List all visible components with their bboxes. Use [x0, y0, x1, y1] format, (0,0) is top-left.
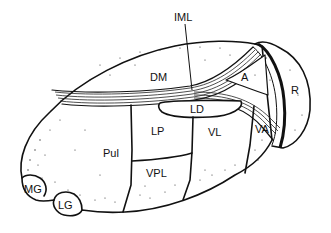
label-va: VA [255, 123, 270, 135]
label-pul: Pul [103, 147, 119, 159]
thalamus-diagram: IML DM A R LD LP VL VA Pul VPL MG LG [0, 0, 331, 233]
label-dm: DM [150, 71, 167, 83]
label-iml: IML [174, 11, 192, 23]
label-r: R [291, 84, 299, 96]
label-vpl: VPL [146, 167, 167, 179]
internal-medullary-lamina [52, 47, 280, 140]
label-ld: LD [190, 103, 204, 115]
label-lg: LG [58, 199, 73, 211]
label-lp: LP [151, 125, 164, 137]
label-mg: MG [24, 183, 42, 195]
iml-pointer-line [185, 24, 192, 90]
thalamus-outline [21, 41, 272, 216]
label-vl: VL [208, 126, 221, 138]
label-a: A [241, 71, 249, 83]
nucleus-boundaries [123, 105, 254, 212]
